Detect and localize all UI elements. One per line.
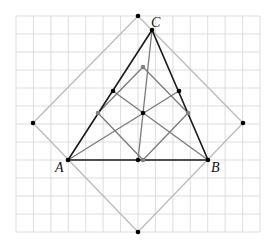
black-point: [66, 158, 71, 163]
geometry-figure: A B C: [0, 0, 274, 241]
label-c: C: [151, 15, 161, 30]
inner-segment: [68, 91, 179, 160]
black-point: [177, 89, 182, 94]
black-point: [136, 14, 141, 19]
black-point: [136, 158, 141, 163]
gray-point: [186, 111, 191, 116]
label-a: A: [54, 160, 64, 175]
black-point: [206, 158, 211, 163]
gray-point: [141, 65, 146, 70]
label-b: B: [211, 160, 220, 175]
gray-point: [141, 158, 146, 163]
black-point: [141, 111, 146, 116]
black-point: [31, 121, 36, 126]
black-point: [241, 121, 246, 126]
black-point: [136, 230, 141, 235]
grid: [16, 16, 260, 232]
gray-point: [96, 111, 101, 116]
black-point: [111, 89, 116, 94]
inner-segment: [143, 113, 188, 160]
